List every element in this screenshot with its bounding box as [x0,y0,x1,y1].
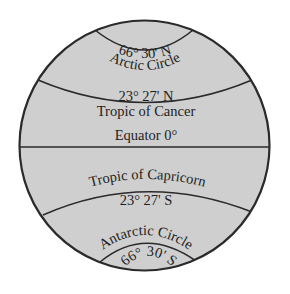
cancer-degree-label: 23° 27' N [118,88,174,104]
tropic-of-cancer-label: Tropic of Cancer [97,103,196,119]
capricorn-degree-label: 23° 27' S [120,192,173,208]
equator-label: Equator 0° [115,127,178,143]
globe-latitude-diagram: 66° 30' N Arctic Circle 23° 27' N Tropic… [0,0,290,294]
